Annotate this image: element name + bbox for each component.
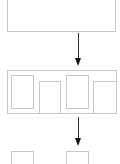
split-block-2: [39, 81, 61, 114]
output-block-2: [66, 151, 89, 164]
top-block: [7, 0, 116, 32]
split-block-1: [11, 75, 34, 109]
split-block-4: [93, 81, 117, 114]
split-block-3: [66, 75, 89, 109]
output-block-1: [11, 151, 34, 164]
